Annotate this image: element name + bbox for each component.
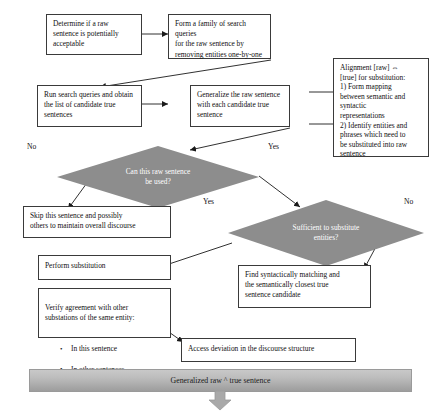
node-run-search: Run search queries and obtain the list o… <box>37 85 142 127</box>
verify-heading: Verify agreement with other substations … <box>45 303 165 323</box>
node-alignment: Alignment [raw] ⇔ [true] for substitutio… <box>333 58 429 157</box>
output-banner-generalized-sentence: Generalized raw ^ true sentence <box>29 369 412 392</box>
edge-label-decision1-no: No <box>27 142 36 151</box>
decision-sufficient-to-substitute-entities: Sufficient to substitute entities? <box>228 200 424 266</box>
verify-bullet-item: In this sentence <box>71 344 165 354</box>
decision-can-this-raw-sentence-be-used: Can this raw sentence be used? <box>57 146 259 208</box>
edge-label-decision2-yes: Yes <box>203 197 214 206</box>
banner-down-arrow-icon <box>205 391 235 411</box>
node-determine: Determine if a raw sentence is potential… <box>46 14 142 55</box>
node-find-syntactic-match: Find syntactically matching and the sema… <box>238 265 371 308</box>
node-generalize: Generalize the raw sentence with each ca… <box>190 85 290 127</box>
edge-label-decision1-yes: Yes <box>268 142 279 151</box>
node-skip-sentence: Skip this sentence and possibly others t… <box>23 206 171 238</box>
node-perform-substitution: Perform substitution <box>38 255 171 280</box>
banner-label: Generalized raw ^ true sentence <box>171 376 271 385</box>
edge-label-decision2-no: No <box>404 197 413 206</box>
flowchart-diagram: Determine if a raw sentence is potential… <box>0 0 440 416</box>
connector-form-to-run <box>100 60 271 87</box>
node-form-family: Form a family of search queries for the … <box>168 14 271 59</box>
node-verify-agreement: Verify agreement with other substations … <box>38 288 171 338</box>
node-access-deviation: Access deviation in the discourse struct… <box>181 338 356 362</box>
